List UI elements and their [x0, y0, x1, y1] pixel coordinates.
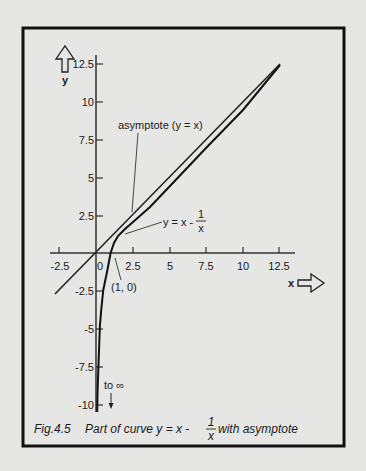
- point-label: (1, 0): [111, 281, 137, 293]
- y-tick-label: -2.5: [75, 285, 94, 297]
- caption-text-after: with asymptote: [218, 422, 298, 436]
- y-axis-label: y: [62, 74, 69, 86]
- y-tick-label: 10: [82, 96, 94, 108]
- x-axis-label: x: [288, 277, 295, 289]
- curve-line: [97, 65, 280, 412]
- y-tick-label: 7.5: [79, 134, 94, 146]
- y-tick-label: -10: [78, 399, 94, 411]
- asymptote-leader-line: [132, 133, 138, 212]
- y-tick-label: 5: [88, 172, 94, 184]
- y-axis-arrow-icon: [56, 46, 74, 72]
- curve-label-numerator: 1: [198, 208, 204, 220]
- x-ticks: [59, 247, 279, 253]
- x-tick-label: 2.5: [125, 260, 140, 272]
- y-tick-label: -7.5: [75, 361, 94, 373]
- x-tick-label: -2.5: [51, 260, 70, 272]
- x-tick-label: 5: [167, 260, 173, 272]
- x-axis-arrow-icon: [298, 274, 324, 292]
- figure-caption: Fig.4.5 Part of curve y = x - 1 x with a…: [34, 415, 298, 443]
- y-tick-labels: 12.5 10 7.5 5 2.5 -2.5 -5 -7.5 -10: [73, 58, 94, 411]
- down-arrow-icon: [109, 403, 114, 409]
- y-tick-label: -5: [84, 323, 94, 335]
- point-leader-line: [115, 258, 121, 280]
- x-tick-label: 12.5: [268, 260, 289, 272]
- x-tick-label: 7.5: [198, 260, 213, 272]
- curve-label-denominator: x: [198, 222, 204, 234]
- y-tick-label: 12.5: [73, 58, 94, 70]
- caption-fraction-denominator: x: [207, 429, 215, 443]
- asymptote-label: asymptote (y = x): [118, 119, 203, 131]
- x-tick-label: 0: [97, 260, 103, 272]
- x-tick-label: 10: [237, 260, 249, 272]
- figure: 12.5 10 7.5 5 2.5 -2.5 -5 -7.5 -10 -2.5 …: [0, 0, 366, 471]
- caption-fraction-numerator: 1: [208, 415, 215, 429]
- curve-label: y = x -: [163, 216, 194, 228]
- caption-fig-number: Fig.4.5: [34, 422, 71, 436]
- figure-frame: [23, 28, 344, 446]
- caption-text: Part of curve y = x -: [85, 422, 189, 436]
- y-tick-label: 2.5: [79, 210, 94, 222]
- to-infinity-label: to ∞: [104, 379, 124, 391]
